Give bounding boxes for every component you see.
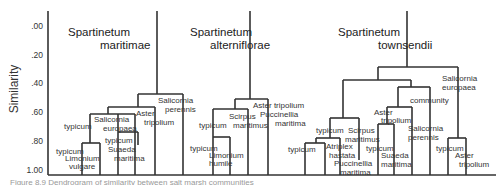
- leaf-label: tripolium: [381, 117, 411, 126]
- leaf-label: typicum: [316, 127, 344, 136]
- group-title: maritimae: [100, 39, 150, 51]
- leaf-label: maritimus: [233, 122, 268, 131]
- leaf-label: typicum: [199, 122, 227, 131]
- leaf-label: maritima: [114, 155, 145, 164]
- leaf-label: tripolium: [144, 119, 174, 128]
- group-title: Spartinetum: [338, 26, 400, 38]
- leaf-label: perennis: [408, 134, 439, 143]
- group-title: alterniflorae: [210, 39, 270, 51]
- leaf-label: maritima: [381, 161, 412, 170]
- leaf-label: tripolium: [459, 161, 489, 170]
- group-title: townsendii: [378, 39, 432, 51]
- leaf-label: community: [410, 97, 449, 106]
- figure-caption: Figure 8.9 Dendrogram of similarity betw…: [10, 178, 254, 185]
- group-title: Spartinetum: [68, 26, 130, 38]
- leaf-label: humile: [209, 160, 233, 169]
- leaf-label: europaea: [103, 125, 137, 134]
- group-title: Spartinetum: [190, 26, 252, 38]
- leaf-label: typicum: [288, 146, 316, 155]
- leaf-label: europaea: [442, 84, 476, 93]
- leaf-label: vulgare: [69, 163, 95, 172]
- dendrogram-figure: Similarity .00 .20 .40 .60 .80 1.00: [0, 0, 496, 185]
- leaf-label: typicum: [64, 123, 92, 132]
- leaf-label: maritima: [340, 169, 371, 178]
- leaf-label: perennis: [165, 106, 196, 115]
- leaf-label: maritima: [275, 120, 306, 129]
